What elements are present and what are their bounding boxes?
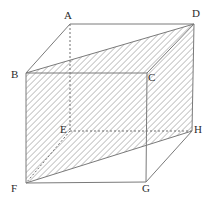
shaded-regions	[26, 24, 194, 183]
vertex-label-b: B	[11, 69, 18, 80]
vertex-label-a: A	[64, 10, 72, 21]
edge-F-G	[26, 182, 146, 183]
vertex-label-h: H	[194, 124, 202, 135]
vertex-label-g: G	[142, 183, 150, 194]
vertex-label-e: E	[60, 124, 67, 135]
vertex-label-d: D	[192, 8, 200, 19]
vertex-label-f: F	[11, 183, 17, 194]
prism-drawing-canvas	[0, 0, 211, 202]
geometry-figure: ABCDEFGH	[0, 0, 211, 202]
vertex-label-c: C	[148, 72, 155, 83]
